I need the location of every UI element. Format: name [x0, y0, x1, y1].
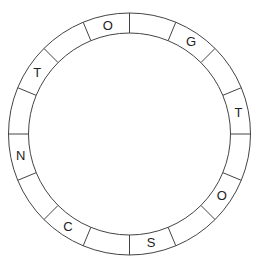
segment-letter: O [217, 188, 227, 203]
segment-divider [168, 22, 176, 40]
segment-divider [44, 205, 58, 219]
segment-letter: S [147, 235, 156, 250]
wheel-segment: T [234, 105, 242, 120]
segment-divider [18, 173, 36, 181]
wheel-segment: O [103, 18, 113, 33]
wheel-segment: S [147, 235, 156, 250]
wheel-segment: G [186, 34, 196, 49]
segment-divider [223, 88, 241, 96]
segments: GTOSCNTO [16, 18, 242, 251]
wheel-segment: O [217, 188, 227, 203]
segment-divider [201, 48, 215, 62]
letter-wheel: GTOSCNTO [0, 0, 260, 268]
segment-divider [18, 88, 36, 96]
letter-wheel-svg: GTOSCNTO [0, 0, 260, 268]
segment-divider [168, 227, 176, 245]
wheel-segment: T [33, 65, 41, 80]
segment-letter: N [16, 148, 25, 163]
segment-divider [83, 227, 91, 245]
segment-divider [201, 205, 215, 219]
segment-letter: G [186, 34, 196, 49]
inner-ring [29, 33, 231, 235]
segment-letter: T [234, 105, 242, 120]
wheel-segment: C [63, 219, 72, 234]
segment-letter: O [103, 18, 113, 33]
segment-divider [83, 22, 91, 40]
segment-dividers [9, 13, 251, 255]
segment-divider [223, 173, 241, 181]
segment-divider [44, 48, 58, 62]
segment-letter: C [63, 219, 72, 234]
segment-letter: T [33, 65, 41, 80]
wheel-segment: N [16, 148, 25, 163]
